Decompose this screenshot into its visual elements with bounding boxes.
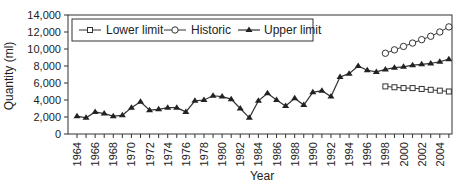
x-tick-label: 1968 <box>107 142 119 166</box>
y-tick-label: 6,000 <box>33 77 61 89</box>
y-tick-label: 2,000 <box>33 111 61 123</box>
x-tick-label: 1970 <box>125 142 137 166</box>
legend-label: Upper limit <box>264 23 322 37</box>
x-tick-label: 1986 <box>271 142 283 166</box>
x-tick-label: 2002 <box>416 142 428 166</box>
x-axis-title: Year <box>250 169 274 183</box>
legend: Lower limit Historic Upper limit <box>72 19 322 41</box>
x-tick-label: 1992 <box>325 142 337 166</box>
filled-triangle-marker-icon <box>327 93 334 99</box>
open-circle-marker-icon <box>382 50 388 56</box>
chart: 02,0004,0006,0008,00010,00012,00014,000 … <box>0 0 469 187</box>
x-axis: 1964196619681970197219741976197819801982… <box>71 134 449 166</box>
open-square-marker-icon <box>419 86 424 91</box>
filled-triangle-marker-icon <box>355 63 362 69</box>
filled-triangle-marker-icon <box>291 95 298 101</box>
filled-triangle-marker-icon <box>445 56 452 62</box>
filled-triangle-marker-icon <box>173 104 180 110</box>
x-tick-label: 1994 <box>343 142 355 166</box>
filled-triangle-marker-icon <box>74 113 81 119</box>
x-tick-label: 1972 <box>144 142 156 166</box>
y-tick-label: 12,000 <box>27 26 61 38</box>
x-tick-label: 1966 <box>89 142 101 166</box>
x-tick-label: 1990 <box>307 142 319 166</box>
x-tick-label: 1998 <box>379 142 391 166</box>
open-square-marker-icon <box>437 88 442 93</box>
open-circle-marker-icon <box>172 27 178 33</box>
x-tick-label: 1964 <box>71 142 83 166</box>
y-tick-label: 0 <box>55 128 61 140</box>
y-axis-title: Quantity (ml) <box>2 42 16 111</box>
filled-triangle-marker-icon <box>210 92 217 98</box>
open-square-marker-icon <box>383 84 388 89</box>
y-tick-label: 14,000 <box>27 9 61 21</box>
filled-triangle-marker-icon <box>92 108 99 114</box>
x-tick-label: 1978 <box>198 142 210 166</box>
x-tick-label: 1984 <box>252 142 264 166</box>
open-square-marker-icon <box>410 86 415 91</box>
filled-triangle-marker-icon <box>128 104 135 110</box>
open-square-marker-icon <box>401 86 406 91</box>
legend-label: Historic <box>191 23 231 37</box>
open-circle-marker-icon <box>400 43 406 49</box>
x-tick-label: 1976 <box>180 142 192 166</box>
open-circle-marker-icon <box>391 47 397 53</box>
open-square-marker-icon <box>88 28 93 33</box>
open-circle-marker-icon <box>418 36 424 42</box>
y-tick-label: 4,000 <box>33 94 61 106</box>
open-circle-marker-icon <box>428 33 434 39</box>
open-square-marker-icon <box>446 89 451 94</box>
filled-triangle-marker-icon <box>264 90 271 96</box>
open-circle-marker-icon <box>409 40 415 46</box>
series-lower-limit <box>383 84 451 94</box>
open-circle-marker-icon <box>437 29 443 35</box>
filled-triangle-marker-icon <box>273 97 280 103</box>
filled-triangle-marker-icon <box>164 104 171 110</box>
open-square-marker-icon <box>428 87 433 92</box>
x-tick-label: 2000 <box>398 142 410 166</box>
y-axis: 02,0004,0006,0008,00010,00012,00014,000 <box>27 9 68 140</box>
open-square-marker-icon <box>392 85 397 90</box>
x-tick-label: 1980 <box>216 142 228 166</box>
y-tick-label: 8,000 <box>33 60 61 72</box>
open-circle-marker-icon <box>446 24 452 30</box>
x-tick-label: 1988 <box>289 142 301 166</box>
x-tick-label: 1982 <box>234 142 246 166</box>
x-tick-label: 1996 <box>361 142 373 166</box>
x-tick-label: 2004 <box>434 142 446 166</box>
series-historic <box>382 24 452 57</box>
filled-triangle-marker-icon <box>137 98 144 104</box>
y-tick-label: 10,000 <box>27 43 61 55</box>
filled-triangle-marker-icon <box>318 87 325 93</box>
legend-label: Lower limit <box>106 23 164 37</box>
x-tick-label: 1974 <box>162 142 174 166</box>
